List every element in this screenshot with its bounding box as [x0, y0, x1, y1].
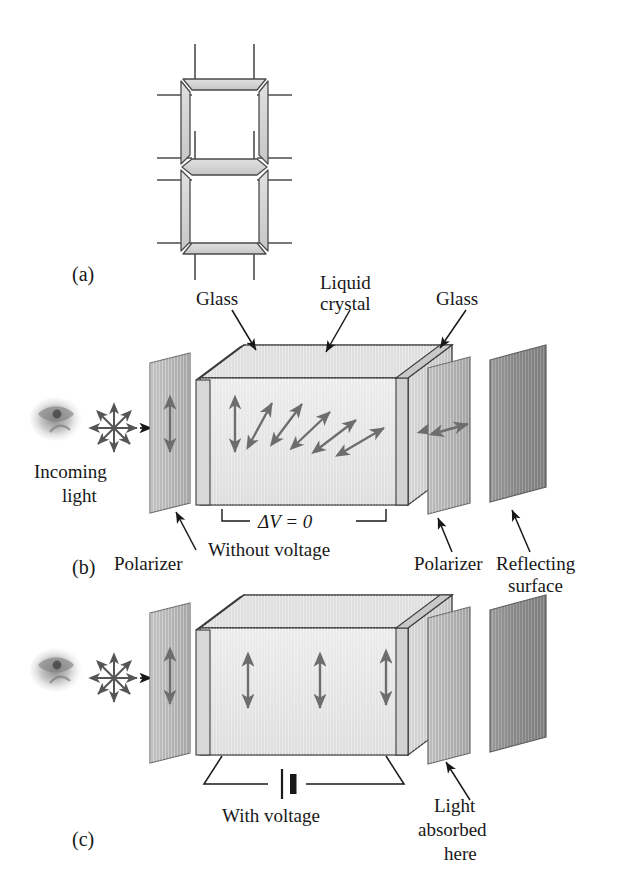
segment-top-right [259, 81, 268, 164]
reflecting-surface-b [490, 345, 546, 502]
segment-top-left [181, 81, 190, 164]
label-light-absorbed-line2: absorbed [418, 819, 487, 840]
segment-middle [182, 159, 267, 175]
panel-b-without-voltage: ΔV = 0 Glass Liquid crystal Glass Incomi… [30, 272, 576, 596]
polarizer-left-b [150, 353, 190, 513]
label-glass-left: Glass [196, 288, 238, 309]
state-label-c: With voltage [222, 805, 320, 826]
panel-a-seven-segment-display: (a) [72, 44, 292, 286]
label-reflecting-surface-line2: surface [508, 575, 563, 596]
label-polarizer-right: Polarizer [414, 553, 483, 574]
label-incoming-light-line1: Incoming [34, 461, 107, 482]
observer-eye-sketch-c [30, 648, 82, 692]
segment-bottom-left [181, 170, 190, 251]
polarizer-left-c [150, 603, 190, 763]
unpolarized-light-burst-b [91, 405, 137, 452]
segment-bottom-right [259, 170, 268, 251]
label-liquid-crystal-line2: crystal [320, 293, 371, 314]
battery-symbol [290, 774, 297, 794]
reflecting-surface-c [490, 595, 546, 752]
label-liquid-crystal-line1: Liquid [320, 272, 371, 293]
panel-b-label: (b) [72, 556, 95, 579]
state-label-b: Without voltage [208, 539, 330, 560]
label-glass-right: Glass [436, 288, 478, 309]
label-light-absorbed-line1: Light [434, 795, 476, 816]
lcd-figure: (a) [0, 0, 624, 894]
segment-bottom [183, 243, 266, 254]
voltage-label-b: ΔV = 0 [257, 511, 313, 532]
display-segments [181, 79, 268, 254]
panel-c-label: (c) [72, 828, 94, 851]
polarizer-right-b [428, 357, 470, 514]
unpolarized-light-burst-c [91, 655, 137, 702]
segment-top [183, 79, 266, 90]
battery-circuit-c [204, 756, 404, 799]
observer-eye-sketch-b [30, 397, 82, 441]
polarizer-right-c [428, 607, 470, 764]
label-incoming-light-line2: light [62, 485, 98, 506]
label-reflecting-surface-line1: Reflecting [496, 553, 576, 574]
panel-c-with-voltage: With voltage Light absorbed here (c) [30, 595, 546, 864]
label-polarizer-left: Polarizer [114, 553, 183, 574]
panel-a-label: (a) [72, 263, 94, 286]
figure-canvas: (a) [0, 0, 624, 894]
label-light-absorbed-line3: here [444, 843, 477, 864]
